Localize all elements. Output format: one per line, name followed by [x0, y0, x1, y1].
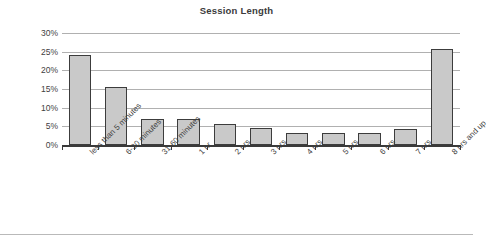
x-axis-tick-labels: less than 5 minutes6-30 minutes31-60 min…: [62, 150, 460, 235]
y-axis-tick-label: 15%: [18, 84, 58, 94]
bar: [69, 55, 91, 145]
y-axis-tick-label: 10%: [18, 103, 58, 113]
bar-slot: [243, 33, 279, 145]
bar: [286, 133, 308, 145]
bar: [322, 133, 344, 145]
bar-slot: [388, 33, 424, 145]
chart-title: Session Length: [0, 5, 473, 16]
bar: [431, 49, 453, 145]
bar-slot: [279, 33, 315, 145]
bar: [250, 128, 272, 145]
bar-slot: [62, 33, 98, 145]
bar-slot: [315, 33, 351, 145]
x-axis-line: [62, 145, 460, 147]
bar-slot: [351, 33, 387, 145]
y-axis-tick-label: 30%: [18, 28, 58, 38]
y-axis-tick-label: 20%: [18, 65, 58, 75]
bar-slot: [207, 33, 243, 145]
y-axis-tick-label: 0%: [18, 140, 58, 150]
bar: [394, 129, 416, 145]
bar-slot: [424, 33, 460, 145]
y-axis-tick-label: 25%: [18, 47, 58, 57]
y-axis-tick-labels: 30%25%20%15%10%5%0%: [18, 33, 58, 145]
bar: [358, 133, 380, 145]
bar: [214, 124, 236, 145]
y-axis-tick-label: 5%: [18, 121, 58, 131]
